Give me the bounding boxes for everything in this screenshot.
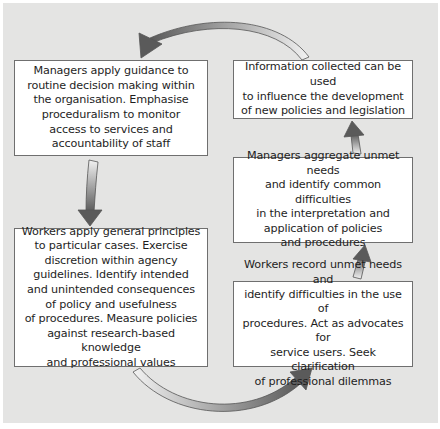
box-info-collected: Information collected can be used to inf…	[233, 60, 413, 119]
box-managers-guidance: Managers apply guidance to routine decis…	[14, 60, 208, 156]
arrow-info-to-managers-guidance	[139, 22, 309, 60]
box-managers-aggregate: Managers aggregate unmet needs and ident…	[233, 157, 413, 243]
arrow-managers-guidance-to-workers-principles	[78, 160, 102, 226]
diagram-canvas: Managers apply guidance to routine decis…	[0, 0, 440, 429]
box-info-collected-text: Information collected can be used to inf…	[238, 60, 408, 118]
box-managers-aggregate-text: Managers aggregate unmet needs and ident…	[238, 149, 408, 251]
box-workers-record: Workers record unmet needs and identify …	[233, 281, 413, 367]
box-workers-principles: Workers apply general principles to part…	[14, 228, 208, 367]
box-workers-record-text: Workers record unmet needs and identify …	[238, 258, 408, 389]
box-workers-principles-text: Workers apply general principles to part…	[19, 225, 203, 371]
box-managers-guidance-text: Managers apply guidance to routine decis…	[27, 64, 195, 152]
